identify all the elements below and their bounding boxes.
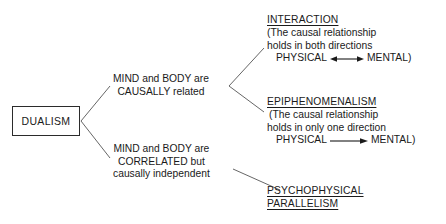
branch-correlated-line-2: CORRELATED but <box>113 156 210 169</box>
term-epiphenomenalism-arrow-left-label: PHYSICAL <box>267 134 327 147</box>
term-interaction: INTERACTION (The causal relationship hol… <box>267 14 411 65</box>
branch-causal-line-1: MIND and BODY are <box>113 73 209 86</box>
term-epiphenomenalism-gloss-line-1: (The causal relationship <box>267 109 415 122</box>
term-epiphenomenalism-gloss-line-2: holds in only one direction <box>267 122 415 135</box>
node-dualism: DUALISM <box>12 106 80 136</box>
term-interaction-heading: INTERACTION <box>267 14 411 27</box>
term-epiphenomenalism-heading: EPIPHENOMENALISM <box>267 96 415 109</box>
diagram-canvas: DUALISM MIND and BODY are CAUSALLY relat… <box>0 0 446 224</box>
connector-causal-to-interaction <box>229 48 264 86</box>
term-interaction-gloss-line-1: (The causal relationship <box>267 27 411 40</box>
branch-causal-line-2: CAUSALLY related <box>113 86 209 99</box>
branch-causally-related: MIND and BODY are CAUSALLY related <box>113 73 209 98</box>
branch-correlated-independent: MIND and BODY are CORRELATED but causall… <box>113 143 210 181</box>
double-headed-arrow-icon <box>330 54 364 64</box>
term-interaction-arrow-right-label: MENTAL) <box>367 52 411 65</box>
branch-correlated-line-1: MIND and BODY are <box>113 143 210 156</box>
single-right-arrow-icon <box>330 136 368 146</box>
term-epiphenomenalism: EPIPHENOMENALISM (The causal relationshi… <box>267 96 415 147</box>
term-interaction-arrow-left-label: PHYSICAL <box>267 52 327 65</box>
connector-dualism-to-causal <box>81 86 110 121</box>
connector-causal-to-epiphenomenalism <box>229 86 264 112</box>
branch-correlated-line-3: causally independent <box>113 168 210 181</box>
connector-dualism-to-correlated <box>81 121 110 158</box>
term-interaction-gloss-line-2: holds in both directions <box>267 40 411 53</box>
term-interaction-arrow-row: PHYSICAL MENTAL) <box>267 52 411 65</box>
term-parallelism-heading-line-2: PARALLELISM <box>267 198 364 211</box>
node-dualism-label: DUALISM <box>22 115 71 127</box>
term-psychophysical-parallelism: PSYCHOPHYSICAL PARALLELISM <box>267 185 364 210</box>
term-parallelism-heading-line-1: PSYCHOPHYSICAL <box>267 185 364 198</box>
term-epiphenomenalism-arrow-right-label: MENTAL) <box>371 134 415 147</box>
term-epiphenomenalism-arrow-row: PHYSICAL MENTAL) <box>267 134 415 147</box>
